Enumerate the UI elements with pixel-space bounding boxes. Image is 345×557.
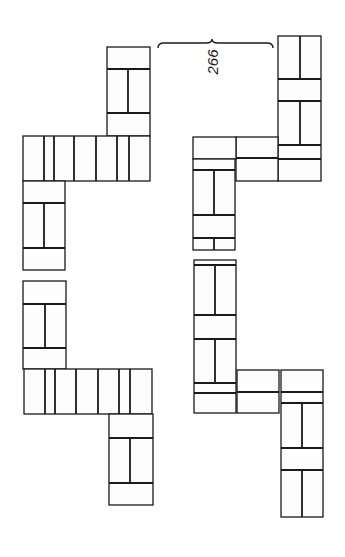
left-upper-row (23, 136, 150, 181)
right-upper-row-a (236, 137, 278, 181)
brick-outline (193, 137, 236, 159)
right-top-column (278, 36, 321, 181)
brick-outline (24, 369, 152, 414)
left-upper-column (23, 181, 65, 270)
dimension-brace (158, 39, 273, 48)
left-lower-column (23, 281, 66, 369)
left-bottom-block (109, 414, 153, 505)
left-lower-row (24, 369, 152, 414)
brick-outline (109, 414, 153, 505)
brick-outline (23, 136, 150, 181)
right-upper-row-b (193, 137, 236, 159)
right-bottom-column (281, 370, 323, 517)
right-lower-column (194, 260, 236, 413)
left-top-block (107, 47, 150, 136)
reference-numeral-label: 266 (204, 49, 221, 76)
left-brick-structure (23, 47, 153, 505)
right-upper-column (193, 159, 235, 250)
brick-outline (236, 137, 278, 181)
right-lower-row (237, 370, 279, 413)
brick-layout-diagram: 266 (0, 0, 345, 557)
right-brick-structure (193, 36, 323, 517)
